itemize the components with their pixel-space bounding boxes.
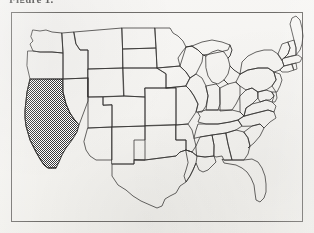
state-new-york xyxy=(240,50,284,74)
state-florida xyxy=(222,159,266,202)
state-colorado xyxy=(103,96,145,127)
state-kentucky xyxy=(198,110,244,124)
us-map-svg xyxy=(0,0,314,233)
state-utah xyxy=(88,78,112,128)
state-indiana xyxy=(206,84,220,110)
state-oregon xyxy=(27,51,63,79)
state-pennsylvania xyxy=(236,68,276,92)
state-ohio xyxy=(220,82,240,111)
state-oklahoma xyxy=(134,125,186,160)
state-montana xyxy=(74,28,123,69)
map-figure xyxy=(0,0,314,233)
state-georgia xyxy=(226,130,250,160)
state-new-mexico xyxy=(112,126,145,164)
state-new-jersey xyxy=(272,72,282,92)
state-arizona xyxy=(84,127,112,160)
state-west-virginia xyxy=(240,88,258,116)
state-illinois xyxy=(186,74,208,112)
state-maryland xyxy=(258,90,274,102)
state-iowa xyxy=(157,66,190,88)
figure-page: Figure 1. xyxy=(0,0,314,233)
state-nebraska xyxy=(123,68,166,97)
state-louisiana xyxy=(184,150,216,182)
great-lakes-outline xyxy=(186,45,240,84)
state-wyoming xyxy=(88,68,124,97)
state-california xyxy=(25,79,79,168)
state-south-carolina xyxy=(244,124,264,148)
state-missouri xyxy=(166,86,198,125)
state-south-dakota xyxy=(123,48,157,68)
state-michigan-lower xyxy=(206,50,230,84)
state-kansas xyxy=(145,88,176,126)
state-north-dakota xyxy=(122,28,156,49)
state-wisconsin xyxy=(180,46,203,78)
state-mississippi xyxy=(196,135,214,157)
state-washington xyxy=(30,30,63,53)
state-maine xyxy=(290,16,303,55)
state-virginia xyxy=(244,100,276,116)
state-arkansas xyxy=(176,124,196,152)
state-texas xyxy=(112,150,197,208)
